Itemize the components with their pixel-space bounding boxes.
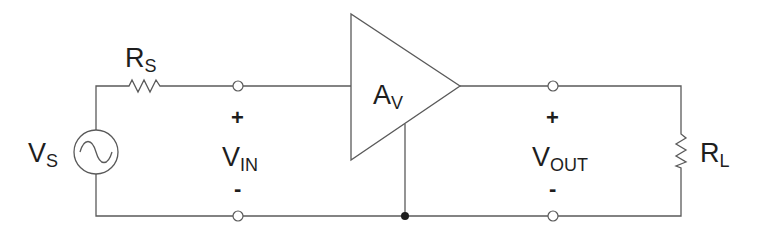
vout-plus-sign: + — [546, 105, 559, 130]
input-terminal-minus — [233, 211, 243, 221]
rs-label: RS — [125, 43, 157, 76]
circuit-diagram: RS VS + VIN - AV + VOUT - RL — [0, 0, 757, 235]
input-terminal-plus — [233, 81, 243, 91]
vin-plus-sign: + — [231, 105, 244, 130]
wire-output-bottom — [558, 170, 681, 216]
source-branch — [74, 80, 233, 216]
av-label: AV — [373, 80, 403, 113]
sine-wave-icon — [80, 142, 112, 163]
source-resistor-icon — [126, 80, 163, 92]
rl-label: RL — [700, 138, 730, 171]
vout-minus-sign: - — [549, 176, 556, 201]
wire-source-bottom — [96, 174, 233, 216]
wire-output-top — [558, 86, 681, 132]
wire-source-top — [96, 86, 126, 130]
load-resistor-icon — [676, 132, 686, 170]
output-terminal-plus — [548, 81, 558, 91]
vout-label: VOUT — [532, 142, 588, 175]
vin-minus-sign: - — [234, 176, 241, 201]
junction-dot — [401, 212, 409, 220]
vs-label: VS — [28, 138, 58, 171]
output-terminal-minus — [548, 211, 558, 221]
vin-label: VIN — [222, 142, 258, 175]
